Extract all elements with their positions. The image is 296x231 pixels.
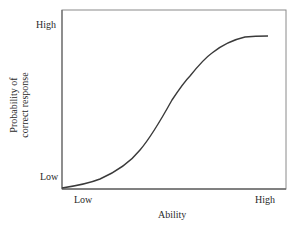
y-tick-high: High xyxy=(36,20,56,30)
y-tick-low: Low xyxy=(40,172,58,182)
x-axis-title: Ability xyxy=(158,210,186,220)
chart-canvas xyxy=(0,0,296,231)
y-axis-title-line2: correct response xyxy=(19,72,30,137)
item-characteristic-curve xyxy=(62,36,268,188)
x-tick-high: High xyxy=(255,195,275,205)
x-tick-low: Low xyxy=(74,195,92,205)
y-axis-title-line1: Probability of xyxy=(8,72,19,137)
